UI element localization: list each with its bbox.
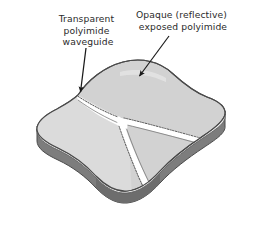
polyimide-slab <box>20 60 225 203</box>
annotation-line: polyimide <box>64 25 110 36</box>
annotation-line: exposed polyimide <box>139 21 228 32</box>
annotation-opaque-polyimide-text: Opaque (reflective) exposed polyimide <box>136 9 230 32</box>
diagram-canvas: Transparent polyimide waveguide Opaque (… <box>0 0 258 227</box>
annotation-line: Transparent <box>58 13 115 24</box>
annotation-transparent-waveguide-text: Transparent polyimide waveguide <box>58 13 118 47</box>
annotation-line: waveguide <box>63 36 114 47</box>
waveguide-diagram: Transparent polyimide waveguide Opaque (… <box>0 0 258 227</box>
annotation-line: Opaque (reflective) <box>136 9 227 20</box>
